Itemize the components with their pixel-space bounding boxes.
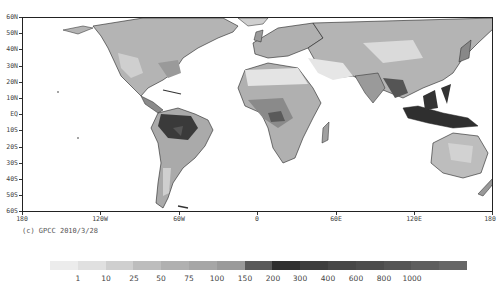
lat-tick [19,66,22,67]
colorbar-label: 400 [321,274,335,283]
colorbar-segment [106,261,134,270]
colorbar-segment [189,261,217,270]
colorbar-label: 150 [238,274,252,283]
lat-label-20n: 20N [0,79,18,86]
lat-tick [19,49,22,50]
lat-tick [19,179,22,180]
lat-label-eq: EQ [0,111,18,118]
lat-label-10s: 10S [0,127,18,134]
credit-text: (c) GPCC 2010/3/28 [22,227,98,235]
lat-label-50s: 50S [0,192,18,199]
lon-label-120e: 120E [406,215,422,223]
colorbar-segment [356,261,384,270]
colorbar-label: 200 [266,274,280,283]
new-zealand [478,178,493,196]
colorbar-segment [384,261,412,270]
map-frame [22,17,493,212]
colorbar-label: 800 [377,274,391,283]
colorbar-label: 600 [349,274,363,283]
lat-tick [19,130,22,131]
colorbar-label: 1000 [402,274,421,283]
colorbar-segment [328,261,356,270]
colorbar-label: 10 [101,274,111,283]
central-america [141,96,163,113]
lon-label-180w: 180 [16,215,28,223]
lon-label-60w: 60W [173,215,185,223]
colorbar-segment [78,261,106,270]
colorbar-segment [272,261,300,270]
colorbar-segment [300,261,328,270]
colorbar-segment [439,261,467,270]
lat-label-20s: 20S [0,144,18,151]
colorbar-label: 300 [293,274,307,283]
world-precipitation-map [23,18,493,212]
lat-tick [19,163,22,164]
colorbar-label: 50 [156,274,166,283]
colorbar-segment [50,261,78,270]
lon-label-180e: 180 [484,215,496,223]
colorbar-label: 25 [129,274,139,283]
lat-label-30n: 30N [0,63,18,70]
colorbar-label: 100 [210,274,224,283]
colorbar-label: 75 [184,274,194,283]
greenland [238,18,268,26]
colorbar-segment [217,261,245,270]
colorbar-segment [411,261,439,270]
lat-tick [19,147,22,148]
lat-tick [19,114,22,115]
lat-tick [19,33,22,34]
colorbar-label: 1 [76,274,81,283]
lat-label-10n: 10N [0,95,18,102]
lat-label-30s: 30S [0,160,18,167]
lat-tick [19,17,22,18]
indonesia [403,106,478,128]
colorbar-segment [245,261,273,270]
lon-label-120w: 120W [92,215,108,223]
lat-tick [19,195,22,196]
colorbar-segment [133,261,161,270]
colorbar-segment [161,261,189,270]
colorbar [50,261,467,270]
lat-label-60s: 60S [0,208,18,215]
lon-label-0: 0 [255,215,259,223]
madagascar [322,122,329,143]
lat-tick [19,98,22,99]
lat-label-40s: 40S [0,176,18,183]
north-america [93,18,238,96]
lat-label-40n: 40N [0,46,18,53]
lon-label-60e: 60E [330,215,342,223]
lat-tick [19,82,22,83]
lat-label-50n: 50N [0,30,18,37]
lat-label-60n: 60N [0,14,18,21]
